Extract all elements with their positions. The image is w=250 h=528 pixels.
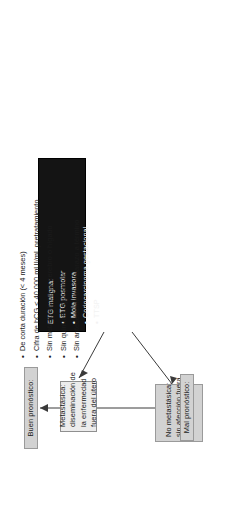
buen-pronostico-box: Buen pronóstico: bbox=[24, 367, 38, 449]
criterio-2: Sin metástasis hacia cerebro o hígado bbox=[43, 199, 57, 358]
no-metastasica-box: No metastásica: sin afección fuera del ú… bbox=[155, 384, 203, 442]
buen-pronostico-label: Buen pronóstico: bbox=[26, 372, 36, 444]
mal-pronostico-box: Mal pronóstico: bbox=[180, 374, 194, 441]
diagram-canvas: ETG maligna: ETG posmolar Mola invasora … bbox=[0, 0, 250, 528]
criterio-3: Sin quimioterapia previa bbox=[57, 199, 71, 358]
criterio-1: Cifra de hCG < 40 000 mUI/mL pretratamie… bbox=[30, 199, 44, 358]
metastasica-line-0: Metastásica: bbox=[58, 386, 68, 427]
buen-pronostico-criterios: De corta duración (< 4 meses) Cifra de h… bbox=[16, 199, 84, 358]
mal-pronostico-label: Mal pronóstico: bbox=[182, 379, 192, 436]
metastasica-line-3: fuera del útero bbox=[89, 386, 99, 427]
metastasica-line-1: diseminación de bbox=[68, 386, 78, 427]
metastasica-line-2: la enfermedad bbox=[79, 386, 89, 427]
criterio-0: De corta duración (< 4 meses) bbox=[16, 199, 30, 358]
criterio-4: Sin antecedente de embarazo a término bbox=[70, 199, 84, 358]
no-metastasica-line-0: No metastásica: bbox=[164, 389, 174, 437]
etg-maligna-item-3: TTSP bbox=[91, 166, 102, 324]
metastasica-box: Metastásica: diseminación de la enfermed… bbox=[60, 381, 97, 432]
